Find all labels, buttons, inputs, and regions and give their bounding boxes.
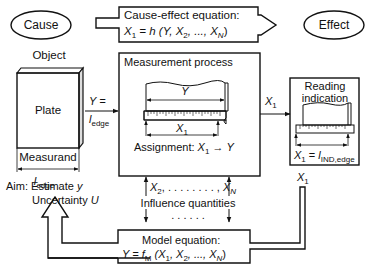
influence-dots-below: . . . . . . [171,210,205,221]
measurement-process-box [119,53,260,176]
plate-label: Plate [35,105,61,117]
cause-label: Cause [24,19,59,31]
effect-label: Effect [319,19,349,31]
reading-equation: X1 = lIND,edge [294,150,355,164]
model-equation-title: Model equation: [142,235,220,246]
object-heading: Object [32,50,65,62]
reading-title-2: indication [302,93,348,104]
feedback-label: X1 [297,172,309,186]
measurand-label: Measurand [19,152,77,164]
assignment-label: Assignment: X1 → Y [134,142,234,156]
output-arrow-label: X1 [265,96,277,110]
cause-effect-formula: X1 = h (Y, X2, ..., XN) [124,26,227,40]
influence-quantities-label: Influence quantities [141,198,236,209]
input-arrow-label-2: ledge [89,114,109,128]
aim-line-2: Uncertainty U [32,195,99,206]
y-dimension-label: Y [181,86,188,97]
ruler-reading [296,125,354,146]
measurement-process-title: Measurement process [124,57,233,68]
aim-line-1: Aim: Estimate y [6,181,82,192]
reading-title-1: Reading [305,81,346,92]
influence-variables: X2, . . . . . . . . , XN [150,182,236,196]
x1-dimension-label: X1 [176,123,188,137]
input-arrow-label-1: Y = [89,96,106,107]
model-equation-formula: Y = fM (X1, X2, ..., XN) [122,249,226,263]
cause-effect-title: Cause-effect equation: [124,10,240,22]
